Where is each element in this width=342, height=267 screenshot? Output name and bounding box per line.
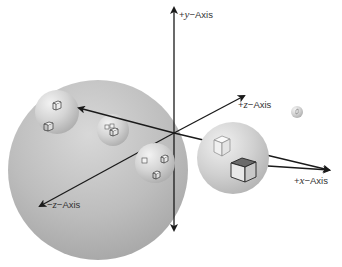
inner-sphere-2 [97, 114, 129, 146]
z-pos-suffix: −Axis [248, 99, 272, 110]
tiny-sphere [291, 106, 303, 118]
z-axis-positive-label: +z−Axis [238, 98, 271, 110]
right-sphere [197, 122, 269, 194]
cube-icon-dark [231, 158, 256, 182]
y-axis-suffix: −Axis [189, 9, 213, 20]
y-axis-label: +y−Axis [179, 8, 213, 20]
cube-icon [142, 158, 147, 163]
x-axis-positive-label: +x−Axis [294, 174, 328, 186]
inner-sphere-1 [35, 90, 79, 134]
z-neg-suffix: −Axis [57, 199, 81, 210]
inner-sphere-3 [135, 143, 175, 183]
x-pos-suffix: −Axis [304, 175, 328, 186]
z-axis-negative-label: −z−Axis [47, 198, 80, 210]
diagram-canvas [0, 0, 342, 267]
